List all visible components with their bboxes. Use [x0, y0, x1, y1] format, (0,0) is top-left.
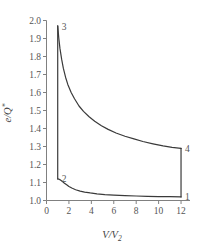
x-axis-title-lead: V/V [102, 229, 119, 240]
y-tick-label: 1.5 [29, 106, 41, 116]
y-tick-label: 1.9 [29, 34, 41, 44]
x-tick-label: 0 [44, 206, 49, 216]
x-axis-title-subscript: 2 [118, 234, 122, 243]
thermodynamic-cycle-chart: 1.01.11.21.31.41.51.61.71.81.92.0 024681… [0, 0, 205, 244]
cycle-curves [58, 26, 181, 197]
y-tick-label: 1.4 [29, 124, 41, 134]
svg-text:e/Q*: e/Q* [1, 103, 14, 122]
y-axis-title: e/Q* [1, 103, 14, 122]
x-tick-label: 2 [67, 206, 72, 216]
y-tick-label: 1.3 [29, 142, 41, 152]
cycle-segment [58, 179, 181, 197]
x-axis-ticks [47, 201, 182, 205]
y-tick-label: 1.6 [29, 88, 41, 98]
x-tick-label: 8 [134, 206, 139, 216]
x-tick-label: 4 [89, 206, 94, 216]
state-point-label: 2 [62, 174, 67, 184]
state-point-label: 3 [62, 22, 67, 32]
y-tick-label: 2.0 [29, 16, 41, 26]
x-axis-tick-labels: 024681012 [44, 206, 186, 216]
y-tick-label: 1.8 [29, 52, 41, 62]
x-tick-label: 6 [111, 206, 116, 216]
state-point-labels: 1234 [62, 22, 190, 203]
svg-text:V/V2: V/V2 [102, 229, 122, 243]
y-axis-title-lead: e/Q [2, 107, 13, 123]
x-axis-title: V/V2 [102, 229, 122, 243]
x-tick-label: 12 [176, 206, 186, 216]
y-tick-label: 1.2 [29, 160, 41, 170]
y-tick-label: 1.7 [29, 70, 41, 80]
x-tick-label: 10 [154, 206, 164, 216]
y-axis-title-superscript: * [1, 103, 10, 107]
y-tick-label: 1.0 [29, 196, 41, 206]
state-point-label: 1 [185, 192, 190, 202]
state-point-label: 4 [185, 144, 190, 154]
y-axis-ticks [43, 21, 47, 201]
axes: 1.01.11.21.31.41.51.61.71.81.92.0 024681… [29, 16, 190, 216]
cycle-segment [58, 26, 181, 148]
y-tick-label: 1.1 [29, 178, 41, 188]
chart-figure: 1.01.11.21.31.41.51.61.71.81.92.0 024681… [0, 0, 205, 244]
y-axis-tick-labels: 1.01.11.21.31.41.51.61.71.81.92.0 [29, 16, 41, 206]
